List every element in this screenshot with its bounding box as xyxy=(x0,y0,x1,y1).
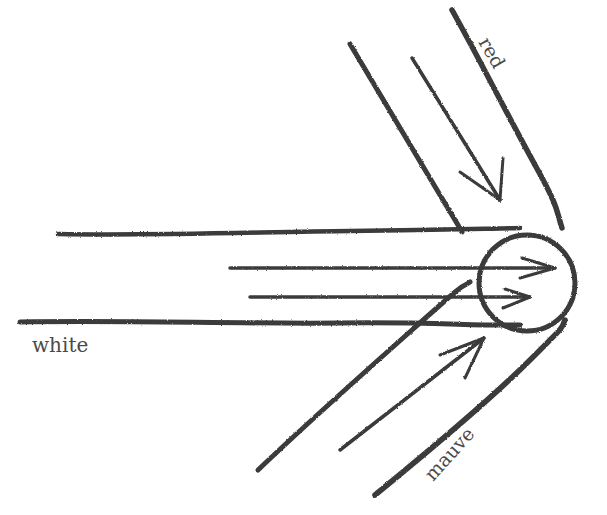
red-beam-left-edge xyxy=(350,44,462,232)
white-arrow-lower xyxy=(250,289,530,308)
mauve-beam-right-edge xyxy=(375,320,565,495)
red-beam-right-edge xyxy=(452,10,562,228)
red-beam xyxy=(350,10,562,232)
label-white: white xyxy=(32,333,88,357)
white-arrow-upper xyxy=(230,258,555,278)
target-circle xyxy=(479,235,575,331)
beam-convergence-diagram: white red mauve xyxy=(0,0,607,515)
white-beam-bottom-edge xyxy=(20,321,520,325)
mauve-beam xyxy=(258,282,565,495)
white-beam-top-edge xyxy=(58,228,520,235)
white-beam xyxy=(20,228,555,325)
